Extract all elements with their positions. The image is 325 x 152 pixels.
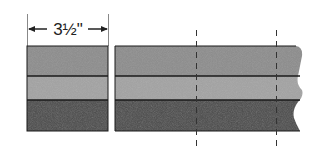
left-block (27, 46, 108, 131)
arrow-right-icon (101, 26, 108, 32)
layered-strip-diagram: 3½" (0, 0, 325, 152)
dimension-label: 3½" (53, 20, 83, 39)
left-top-layer (27, 46, 108, 76)
left-bottom-layer (27, 100, 108, 131)
right-block (115, 46, 315, 131)
right-top-layer (115, 46, 315, 76)
right-middle-layer (115, 76, 315, 100)
arrow-left-icon (28, 26, 35, 32)
right-bottom-layer (115, 100, 315, 131)
left-middle-layer (27, 76, 108, 100)
dimension-annotation: 3½" (28, 14, 109, 46)
